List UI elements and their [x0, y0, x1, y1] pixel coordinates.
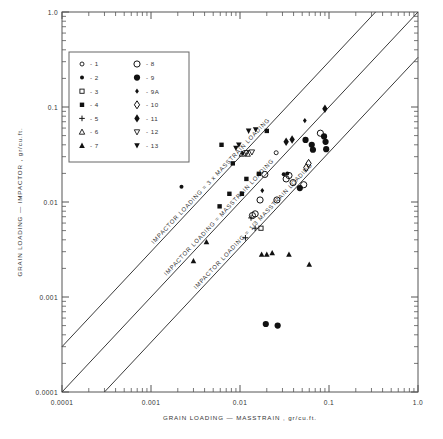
y-tick-label: 0.001	[39, 294, 58, 301]
x-tick-label: 0.01	[233, 399, 247, 406]
legend-label-8: - 8	[146, 60, 155, 67]
x-tick-label: 0.001	[142, 399, 161, 406]
data-point-filled-square-small	[217, 204, 221, 208]
data-point-filled-circle-large	[322, 139, 328, 145]
y-tick-label: 0.01	[44, 199, 58, 206]
data-point-filled-triangle-up	[269, 250, 275, 255]
legend-label-5: - 5	[90, 115, 99, 122]
data-point-filled-circle-small	[285, 171, 289, 175]
data-point-filled-circle-large	[263, 321, 269, 327]
x-tick-label: 0.1	[324, 399, 334, 406]
legend-label-12: - 12	[146, 128, 159, 135]
legend-box	[69, 52, 189, 162]
legend-label-13: - 13	[146, 142, 159, 149]
data-point-filled-circle-large	[310, 147, 316, 153]
x-tick-label: 0.0001	[51, 399, 74, 406]
legend-label-10: - 10	[146, 101, 159, 108]
data-point-filled-square-small	[257, 172, 261, 176]
data-point-filled-diamond-small	[260, 188, 264, 193]
legend: - 1- 2- 3- 4- 5- 6- 7- 8- 9- 9A- 10- 11-…	[69, 52, 189, 162]
data-point-filled-triangle-up	[306, 261, 312, 266]
data-point-filled-square-small	[240, 192, 244, 196]
data-point-filled-square-small	[80, 103, 84, 107]
data-point-filled-circle-large	[134, 75, 140, 81]
data-point-filled-square-small	[227, 192, 231, 196]
data-point-open-circle-large	[257, 197, 263, 203]
data-point-filled-circle-large	[297, 185, 303, 191]
data-point-filled-diamond-small	[303, 118, 307, 123]
legend-label-4: - 4	[90, 101, 99, 108]
legend-label-11: - 11	[146, 115, 158, 122]
data-point-filled-circle-large	[302, 137, 308, 143]
data-point-filled-circle-small	[282, 172, 286, 176]
x-axis-label: GRAIN LOADING — MASSTRAIN , gr/cu.ft.	[163, 414, 317, 421]
data-point-filled-square-small	[265, 129, 269, 133]
legend-label-2: - 2	[90, 74, 99, 81]
data-point-filled-diamond	[322, 104, 327, 112]
data-point-filled-triangle-up	[264, 252, 270, 257]
data-point-filled-triangle-up	[286, 252, 292, 257]
data-point-filled-circle-large	[321, 133, 327, 139]
legend-label-9A: - 9A	[146, 88, 160, 95]
data-point-filled-triangle-up	[259, 252, 265, 257]
data-point-open-circle-small	[274, 151, 278, 155]
data-point-filled-triangle-up	[191, 258, 197, 263]
data-point-open-triangle-down	[249, 150, 254, 155]
data-point-filled-square-small	[231, 161, 235, 165]
legend-label-7: - 7	[90, 142, 99, 149]
data-point-filled-square-small	[244, 177, 248, 181]
data-point-filled-circle-small	[179, 185, 183, 189]
data-point-filled-circle-large	[275, 322, 281, 328]
data-point-filled-circle-large	[323, 146, 329, 152]
data-point-filled-diamond	[289, 135, 294, 143]
loglog-scatter-chart: 0.00010.0010.010.11.00.00010.0010.010.11…	[0, 0, 443, 439]
data-point-filled-circle-small	[80, 76, 84, 80]
legend-label-6: - 6	[90, 128, 99, 135]
x-tick-label: 1.0	[413, 399, 423, 406]
y-axis-label: GRAIN LOADING — IMPACTOR , gr/cu.ft.	[16, 127, 23, 276]
y-tick-label: 0.0001	[35, 389, 58, 396]
legend-label-3: - 3	[90, 88, 99, 95]
chart-root: 0.00010.0010.010.11.00.00010.0010.010.11…	[0, 0, 443, 439]
data-point-filled-diamond	[283, 138, 288, 146]
data-point-filled-square-small	[219, 143, 223, 147]
legend-label-9: - 9	[146, 74, 155, 81]
y-tick-label: 1.0	[48, 9, 58, 16]
y-tick-label: 0.1	[48, 104, 58, 111]
legend-label-1: - 1	[90, 60, 99, 67]
